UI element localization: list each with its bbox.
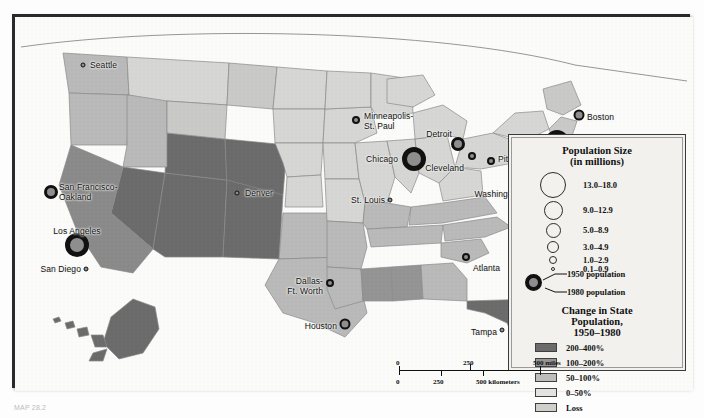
legend-change-title-line2: Population, xyxy=(509,316,685,328)
city-label-washington: Washington xyxy=(15,190,520,200)
city-label-cleveland: Cleveland xyxy=(15,164,464,174)
city-marker-san-diego[interactable] xyxy=(84,267,89,272)
legend-size-class-row: 9.0–12.9 xyxy=(509,199,685,221)
legend-change-title-line3: 1950–1980 xyxy=(509,327,685,339)
legend-population-size-title-line2: (in millions) xyxy=(509,156,685,168)
scale-km-tick-1: 0 xyxy=(396,378,400,386)
city-marker-boston[interactable] xyxy=(574,110,585,121)
city-label-minneapolis-st-paul: Minneapolis- St. Paul xyxy=(364,112,413,131)
legend-size-circle-5 xyxy=(549,256,557,264)
scale-miles-tick-2: 250 xyxy=(463,359,474,367)
legend-change-swatch-1 xyxy=(535,343,557,352)
map-frame: SeattleSan Francisco- OaklandLos Angeles… xyxy=(12,14,690,388)
legend-change-label-4: 0–50% xyxy=(566,388,592,398)
city-marker-pittsburgh[interactable] xyxy=(487,157,495,165)
city-marker-minneapolis-st-paul[interactable] xyxy=(352,116,360,124)
scale-km-tick-2: 250 xyxy=(433,378,444,386)
city-marker-los-angeles[interactable] xyxy=(65,233,89,257)
scale-tick-km-500 xyxy=(483,370,484,376)
map-legend: Population Size (in millions) 13.0–18.09… xyxy=(508,134,686,371)
legend-change-title-line1: Change in State xyxy=(509,305,685,317)
city-marker-detroit[interactable] xyxy=(451,137,465,151)
city-marker-seattle[interactable] xyxy=(81,63,86,68)
legend-size-circle-4 xyxy=(547,241,559,253)
legend-size-label-3: 5.0–8.9 xyxy=(583,225,609,235)
city-label-los-angeles: Los Angeles xyxy=(17,227,137,237)
scale-miles-tick-3: 500 miles xyxy=(533,359,561,367)
legend-change-label-1: 200–400% xyxy=(566,343,604,353)
city-label-boston: Boston xyxy=(587,113,614,123)
scale-tick-mi-500 xyxy=(540,366,541,375)
legend-dual-year-circle xyxy=(525,274,542,291)
scale-tick-mi-250 xyxy=(470,364,471,371)
city-label-detroit: Detroit xyxy=(15,130,452,140)
legend-size-class-row: 13.0–18.0 xyxy=(509,170,685,199)
city-label-tampa: Tampa xyxy=(15,328,497,338)
map-figure: SeattleSan Francisco- OaklandLos Angeles… xyxy=(0,0,704,418)
city-label-san-diego: San Diego xyxy=(15,265,81,275)
legend-size-label-4: 3.0–4.9 xyxy=(583,242,609,252)
legend-change-class-row: Loss xyxy=(535,401,583,414)
city-marker-cleveland[interactable] xyxy=(468,152,476,160)
legend-year-symbol-group: 1950 population 1980 population xyxy=(523,268,673,298)
figure-caption: MAP 28.2 xyxy=(14,404,46,411)
scale-tick-km-250 xyxy=(441,370,442,376)
legend-size-circle-1 xyxy=(540,172,566,198)
city-label-dallas-ft-worth: Dallas- Ft. Worth xyxy=(15,277,323,296)
legend-size-label-1: 13.0–18.0 xyxy=(583,180,617,190)
city-marker-atlanta[interactable] xyxy=(462,253,470,261)
legend-size-class-row: 3.0–4.9 xyxy=(509,239,685,254)
city-marker-tampa[interactable] xyxy=(500,328,505,333)
scale-tick-0 xyxy=(399,366,400,375)
city-marker-dallas-ft-worth[interactable] xyxy=(326,279,334,287)
city-label-seattle: Seattle xyxy=(90,61,117,71)
legend-1980-population-label: 1980 population xyxy=(567,287,625,297)
legend-change-swatch-5 xyxy=(535,403,557,412)
legend-change-label-5: Loss xyxy=(566,403,583,413)
legend-population-size-title-line1: Population Size xyxy=(509,145,685,157)
legend-change-class-row: 200–400% xyxy=(535,341,604,354)
legend-size-circle-3 xyxy=(546,223,561,238)
legend-year-leader-lines xyxy=(541,268,567,298)
legend-change-swatch-4 xyxy=(535,388,557,397)
legend-size-circle-2 xyxy=(544,201,563,220)
legend-size-label-2: 9.0–12.9 xyxy=(583,205,613,215)
legend-1950-population-label: 1950 population xyxy=(567,269,625,279)
scale-km-tick-3: 500 kilometers xyxy=(476,378,520,386)
city-label-atlanta: Atlanta xyxy=(473,264,500,274)
legend-size-class-row: 5.0–8.9 xyxy=(509,221,685,239)
scale-bar: 0250500 miles 0250500 kilometers xyxy=(393,359,573,389)
